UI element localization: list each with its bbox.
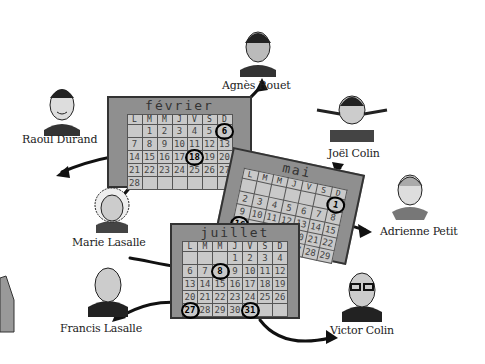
- portrait-raoul-durand: [44, 89, 80, 136]
- portrait-marie-lasalle: [95, 188, 129, 233]
- portrait-adrienne-petit: [392, 175, 428, 220]
- name-francis-lasalle: Francis Lasalle: [60, 322, 142, 335]
- name-joel-colin: Joël Colin: [328, 147, 380, 160]
- portrait-agnes-rouet: [240, 32, 276, 77]
- portraits-layer: [0, 0, 485, 364]
- portrait-victor-colin: [342, 273, 382, 322]
- name-adrienne-petit: Adrienne Petit: [380, 225, 457, 238]
- name-marie-lasalle: Marie Lasalle: [72, 236, 146, 249]
- name-agnes-rouet: Agnès Rouet: [222, 79, 290, 92]
- name-raoul-durand: Raoul Durand: [22, 133, 97, 146]
- portrait-joel-colin: [317, 96, 387, 142]
- portrait-francis-lasalle: [88, 268, 128, 317]
- name-victor-colin: Victor Colin: [330, 324, 394, 337]
- partial-calendar-edge: [0, 276, 14, 332]
